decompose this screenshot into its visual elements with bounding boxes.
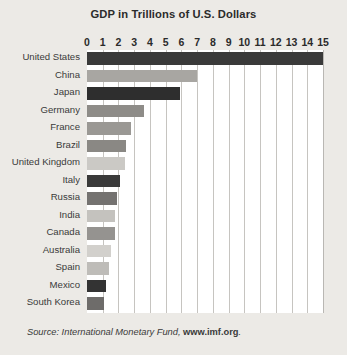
label-south-korea: South Korea [0, 295, 84, 313]
x-tick-15: 15 [317, 36, 329, 48]
bar-row [87, 295, 323, 313]
bar-row [87, 208, 323, 226]
bar-row [87, 85, 323, 103]
bar-canada [87, 227, 115, 240]
bar-russia [87, 192, 117, 205]
x-tick-0: 0 [84, 36, 90, 48]
bar-row [87, 68, 323, 86]
bar-row [87, 103, 323, 121]
x-tick-14: 14 [301, 36, 313, 48]
bar-japan [87, 87, 180, 100]
bar-row [87, 50, 323, 68]
label-canada: Canada [0, 225, 84, 243]
label-china: China [0, 68, 84, 86]
label-germany: Germany [0, 103, 84, 121]
bar-brazil [87, 140, 126, 153]
bars-layer [87, 50, 323, 313]
x-tick-6: 6 [178, 36, 184, 48]
chart-title: GDP in Trillions of U.S. Dollars [0, 8, 347, 20]
label-spain: Spain [0, 260, 84, 278]
label-australia: Australia [0, 243, 84, 261]
x-tick-2: 2 [116, 36, 122, 48]
bar-row [87, 225, 323, 243]
x-tick-12: 12 [270, 36, 282, 48]
bar-india [87, 210, 115, 223]
source-suffix: . [239, 327, 242, 337]
x-tick-10: 10 [238, 36, 250, 48]
category-labels: United StatesChinaJapanGermanyFranceBraz… [0, 50, 84, 313]
label-united-states: United States [0, 50, 84, 68]
label-brazil: Brazil [0, 138, 84, 156]
x-tick-3: 3 [131, 36, 137, 48]
gdp-bar-chart-card: GDP in Trillions of U.S. Dollars 0123456… [0, 0, 347, 355]
bar-row [87, 120, 323, 138]
bar-united-kingdom [87, 157, 125, 170]
label-russia: Russia [0, 190, 84, 208]
bar-row [87, 278, 323, 296]
bar-united-states [87, 52, 323, 65]
bar-spain [87, 262, 109, 275]
label-india: India [0, 208, 84, 226]
bar-france [87, 122, 131, 135]
bar-row [87, 173, 323, 191]
bar-south-korea [87, 297, 104, 310]
bar-australia [87, 245, 111, 258]
x-tick-4: 4 [147, 36, 153, 48]
source-prefix: Source: International Monetary Fund, [27, 327, 183, 337]
label-japan: Japan [0, 85, 84, 103]
bar-mexico [87, 280, 106, 293]
bar-row [87, 190, 323, 208]
x-tick-11: 11 [255, 36, 266, 48]
x-tick-1: 1 [100, 36, 106, 48]
bar-row [87, 138, 323, 156]
plot-wrapper: 0123456789101112131415 [87, 36, 323, 313]
x-tick-9: 9 [226, 36, 232, 48]
x-tick-5: 5 [163, 36, 169, 48]
source-note: Source: International Monetary Fund, www… [27, 327, 241, 337]
x-axis-tick-labels: 0123456789101112131415 [87, 36, 323, 50]
label-france: France [0, 120, 84, 138]
label-italy: Italy [0, 173, 84, 191]
x-tick-7: 7 [194, 36, 200, 48]
bar-china [87, 70, 197, 83]
bar-row [87, 155, 323, 173]
x-tick-13: 13 [286, 36, 298, 48]
bar-row [87, 260, 323, 278]
bar-italy [87, 175, 120, 188]
label-united-kingdom: United Kingdom [0, 155, 84, 173]
x-tick-8: 8 [210, 36, 216, 48]
label-mexico: Mexico [0, 278, 84, 296]
bar-germany [87, 105, 144, 118]
bar-row [87, 243, 323, 261]
source-link[interactable]: www.imf.org [183, 327, 238, 337]
